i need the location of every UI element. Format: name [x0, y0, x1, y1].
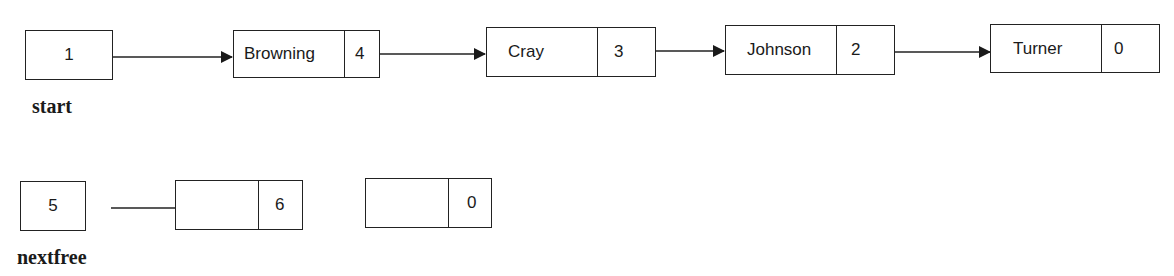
nextfree-label: nextfree [17, 246, 87, 269]
node-data: Cray [487, 28, 598, 76]
node-data: Johnson [726, 26, 837, 74]
node-data: Turner [991, 25, 1102, 72]
free-node-1: 6 [175, 180, 303, 230]
node-next: 3 [598, 28, 623, 76]
node-data: Browning [234, 31, 345, 77]
node-next: 0 [449, 179, 476, 227]
nextfree-pointer-value: 5 [21, 182, 85, 230]
node-cray: Cray 3 [486, 27, 656, 77]
start-pointer-value: 1 [26, 31, 112, 79]
node-next: 0 [1102, 25, 1123, 72]
start-label: start [32, 95, 72, 118]
node-next: 2 [837, 26, 860, 74]
start-pointer-box: 1 [25, 30, 113, 80]
node-turner: Turner 0 [990, 24, 1160, 73]
node-data [366, 179, 449, 227]
node-johnson: Johnson 2 [725, 25, 895, 75]
node-data [176, 181, 259, 229]
node-next: 6 [259, 181, 284, 229]
node-browning: Browning 4 [233, 30, 380, 78]
nextfree-pointer-box: 5 [20, 181, 86, 231]
node-next: 4 [345, 31, 364, 77]
free-node-2: 0 [365, 178, 492, 228]
